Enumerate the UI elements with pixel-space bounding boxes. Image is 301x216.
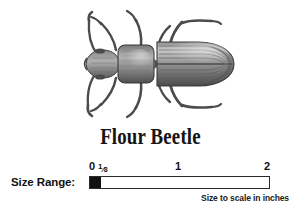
tick-label-one-eighth: 1⁄8 <box>98 160 108 176</box>
beetle-dorsal-engraving-icon <box>58 6 244 122</box>
size-range-section: Size Range: 0 1⁄8 1 2 Size to scale in i… <box>0 160 301 194</box>
fraction-denominator: 8 <box>104 166 108 173</box>
tick-label-0: 0 <box>89 160 95 173</box>
beetle-pronotum <box>118 45 154 83</box>
size-range-label: Size Range: <box>11 176 75 188</box>
beetle-elytra <box>157 42 234 86</box>
illustration-container <box>0 6 301 122</box>
scale-note: Size to scale in inches <box>201 193 289 203</box>
fraction-numerator: 1 <box>98 162 102 171</box>
page-title: Flour Beetle <box>27 124 274 150</box>
tick-label-1: 1 <box>175 160 181 173</box>
tick-label-2: 2 <box>264 160 270 173</box>
species-card: Flour Beetle Size Range: 0 1⁄8 1 2 Size … <box>0 0 301 216</box>
beetle-head <box>84 48 120 79</box>
size-range-fill <box>90 177 101 188</box>
size-range-ruler <box>89 176 270 189</box>
